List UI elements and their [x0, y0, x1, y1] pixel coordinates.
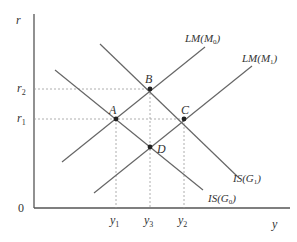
- point-c-label: C: [181, 103, 190, 117]
- r2-label: r2: [17, 81, 26, 97]
- lm-m0-label: LM(M0): [184, 32, 221, 46]
- is-lm-diagram: A B C D r y 0 r2 r1 y1 y3 y2 LM(M0) LM(M…: [0, 0, 297, 242]
- r1-label: r1: [17, 111, 26, 127]
- is-g0-curve: [55, 70, 203, 190]
- y3-label: y3: [143, 213, 153, 229]
- is-g1-label: IS(G1): [232, 172, 261, 186]
- lm-m1-curve: [94, 66, 252, 193]
- point-a-label: A: [108, 103, 117, 117]
- point-b-label: B: [145, 72, 153, 86]
- x-axis-label: y: [271, 217, 278, 231]
- point-d-label: D: [156, 142, 166, 156]
- origin-label: 0: [18, 201, 24, 215]
- point-d: [148, 145, 153, 150]
- point-b: [148, 87, 153, 92]
- y2-label: y2: [177, 213, 187, 229]
- is-g0-label: IS(G0): [207, 192, 236, 206]
- y-axis-label: r: [16, 13, 21, 27]
- is-g1-curve: [100, 44, 238, 177]
- lm-m1-label: LM(M1): [241, 52, 278, 66]
- point-a: [114, 117, 119, 122]
- y1-label: y1: [109, 213, 119, 229]
- point-c: [182, 117, 187, 122]
